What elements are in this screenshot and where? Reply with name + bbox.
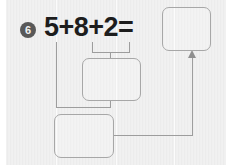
middle-box-stem (110, 101, 111, 108)
result-path-horizontal (114, 135, 193, 136)
answer-box-middle[interactable] (82, 58, 141, 101)
worksheet-canvas: 6 5+8+2= (0, 0, 232, 165)
first-addend-drop-line (56, 42, 57, 108)
result-path-vertical (192, 55, 193, 136)
answer-box-sum[interactable] (162, 7, 211, 51)
answer-box-bottom[interactable] (54, 114, 114, 158)
first-addend-join-line (56, 107, 111, 108)
arrow-up-icon (188, 50, 196, 58)
problem-number-badge: 6 (20, 22, 36, 38)
equation-text: 5+8+2= (44, 12, 133, 42)
